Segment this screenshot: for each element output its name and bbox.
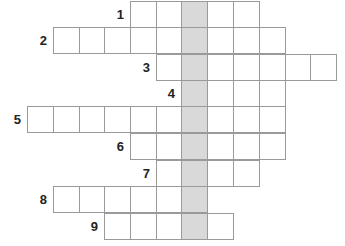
clue-number-5: 5 [5,113,21,127]
grid-cell-r3-c2[interactable] [181,54,208,81]
crossword-grid: 123456789 [0,0,345,246]
clue-number-6: 6 [108,140,124,154]
grid-cell-r5-c10[interactable] [259,106,286,133]
grid-cell-r2-c3[interactable] [104,27,131,54]
grid-cell-r2-c5[interactable] [156,27,183,54]
grid-cell-r8-c5[interactable] [156,186,183,213]
grid-cell-r2-c9[interactable] [259,27,286,54]
grid-cell-r7-c2[interactable] [181,160,208,187]
grid-cell-r5-c5[interactable] [130,106,157,133]
grid-cell-r1-c3[interactable] [181,1,208,28]
grid-cell-r1-c1[interactable] [130,1,157,28]
grid-cell-r9-c5[interactable] [207,213,234,240]
grid-cell-r7-c4[interactable] [233,160,260,187]
grid-cell-r8-c2[interactable] [79,186,106,213]
grid-cell-r4-c1[interactable] [181,80,208,107]
grid-cell-r2-c8[interactable] [233,27,260,54]
grid-cell-r2-c2[interactable] [79,27,106,54]
grid-cell-r9-c4[interactable] [181,213,208,240]
grid-cell-r8-c4[interactable] [130,186,157,213]
grid-cell-r6-c2[interactable] [156,133,183,160]
grid-cell-r1-c5[interactable] [233,1,260,28]
clue-number-4: 4 [159,87,175,101]
grid-cell-r6-c3[interactable] [181,133,208,160]
grid-cell-r8-c3[interactable] [104,186,131,213]
clue-number-8: 8 [31,193,47,207]
grid-cell-r1-c2[interactable] [156,1,183,28]
grid-cell-r2-c7[interactable] [207,27,234,54]
grid-cell-r7-c1[interactable] [156,160,183,187]
clue-number-3: 3 [134,61,150,75]
grid-cell-r3-c3[interactable] [207,54,234,81]
grid-cell-r4-c3[interactable] [233,80,260,107]
grid-cell-r5-c3[interactable] [79,106,106,133]
grid-cell-r5-c9[interactable] [233,106,260,133]
grid-cell-r3-c6[interactable] [285,54,312,81]
clue-number-2: 2 [31,34,47,48]
grid-cell-r9-c1[interactable] [104,213,131,240]
grid-cell-r5-c1[interactable] [27,106,54,133]
grid-cell-r9-c3[interactable] [156,213,183,240]
grid-cell-r5-c6[interactable] [156,106,183,133]
grid-cell-r8-c1[interactable] [53,186,80,213]
clue-number-9: 9 [82,220,98,234]
grid-cell-r2-c1[interactable] [53,27,80,54]
clue-number-7: 7 [134,167,150,181]
grid-cell-r2-c4[interactable] [130,27,157,54]
grid-cell-r5-c7[interactable] [181,106,208,133]
grid-cell-r9-c2[interactable] [130,213,157,240]
grid-cell-r5-c4[interactable] [104,106,131,133]
grid-cell-r8-c6[interactable] [181,186,208,213]
grid-cell-r3-c7[interactable] [310,54,337,81]
grid-cell-r4-c4[interactable] [259,80,286,107]
grid-cell-r6-c1[interactable] [130,133,157,160]
grid-cell-r6-c6[interactable] [259,133,286,160]
grid-cell-r3-c5[interactable] [259,54,286,81]
grid-cell-r6-c5[interactable] [233,133,260,160]
grid-cell-r4-c2[interactable] [207,80,234,107]
grid-cell-r3-c4[interactable] [233,54,260,81]
clue-number-1: 1 [108,8,124,22]
grid-cell-r1-c4[interactable] [207,1,234,28]
grid-cell-r5-c8[interactable] [207,106,234,133]
grid-cell-r6-c4[interactable] [207,133,234,160]
grid-cell-r7-c3[interactable] [207,160,234,187]
grid-cell-r3-c1[interactable] [156,54,183,81]
grid-cell-r2-c6[interactable] [181,27,208,54]
grid-cell-r5-c2[interactable] [53,106,80,133]
